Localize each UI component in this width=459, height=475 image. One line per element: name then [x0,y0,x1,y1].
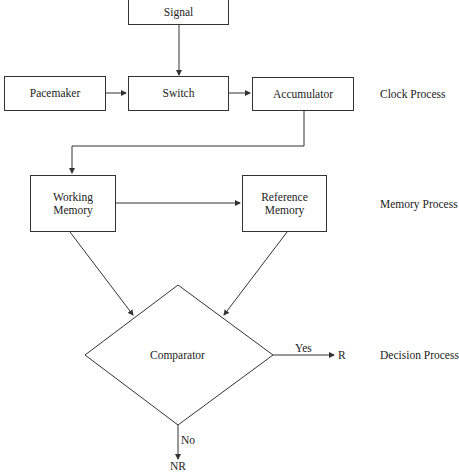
decision-process-label: Decision Process [380,349,459,361]
working-memory-node: Working Memory [30,175,116,232]
memory-process-label: Memory Process [380,198,458,210]
switch-node: Switch [128,76,229,111]
pacemaker-node: Pacemaker [4,76,106,111]
accumulator-node: Accumulator [252,77,354,111]
comparator-label: Comparator [150,349,205,361]
reference-memory-node: Reference Memory [242,175,327,232]
nr-output: NR [170,460,186,472]
clock-process-label: Clock Process [380,88,445,100]
yes-label: Yes [295,342,312,354]
r-output: R [338,349,346,361]
signal-node: Signal [128,0,229,25]
no-label: No [181,434,195,446]
